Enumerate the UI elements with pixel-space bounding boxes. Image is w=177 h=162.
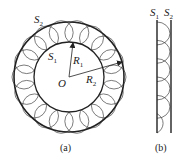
caption-b: (b) <box>155 142 167 154</box>
panel-b: S1 S2 (b) <box>150 6 174 154</box>
small-circle <box>12 65 36 89</box>
label-s2-b: S2 <box>164 6 174 21</box>
panel-a: S2 S1 R1 R2 O (a) <box>12 13 126 154</box>
label-s2-outer: S2 <box>34 13 44 28</box>
label-s1-b: S1 <box>150 6 160 21</box>
small-circle <box>102 65 126 89</box>
caption-a: (a) <box>60 142 71 154</box>
figure: S2 S1 R1 R2 O (a) S1 S2 (b) <box>0 0 177 162</box>
panel-b-arcs <box>157 22 170 133</box>
panel-b-arc <box>157 114 163 133</box>
label-center-o: O <box>58 77 66 89</box>
